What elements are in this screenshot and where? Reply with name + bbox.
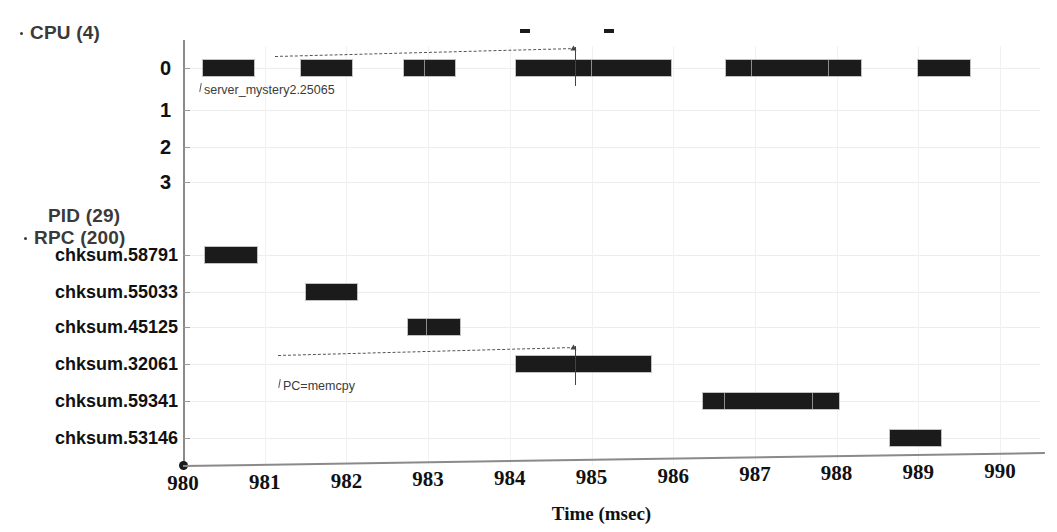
- y-axis-tick: [183, 110, 190, 111]
- y-axis-tick: [183, 292, 190, 293]
- y-axis-tick: [183, 255, 190, 256]
- x-axis-title: Time (msec): [552, 503, 651, 525]
- vertical-gridline: [428, 46, 429, 465]
- y-axis-tick: [183, 364, 190, 365]
- y-axis-tick: [183, 68, 190, 69]
- cpu-bar-segment-divider: [424, 60, 425, 76]
- cpu-header-bullet: [20, 32, 23, 35]
- cpu-bar-segment-divider: [591, 60, 592, 76]
- cpu-row-label: 0: [160, 57, 171, 80]
- cpu-bar-segment-divider: [751, 60, 752, 76]
- x-axis-tick-label: 987: [739, 462, 771, 487]
- row-gridline: [183, 147, 1040, 148]
- server-mystery-annotation-label: server_mystery2.25065: [204, 83, 335, 97]
- vertical-gridline: [918, 46, 919, 465]
- rpc-bar[interactable]: [890, 430, 941, 446]
- x-axis-tick-label: 983: [412, 467, 444, 492]
- pc-memcpy-annotation-label: PC=memcpy: [283, 379, 355, 393]
- rpc-bar[interactable]: [205, 247, 256, 263]
- row-gridline: [183, 110, 1040, 111]
- rpc-row-label: chksum.45125: [55, 317, 178, 338]
- cpu-bar[interactable]: [516, 60, 671, 76]
- x-axis-tick-label: 985: [576, 465, 608, 490]
- cpu-row-label: 3: [160, 171, 171, 194]
- pc-memcpy-annotation-arrow-stem: [575, 346, 576, 385]
- row-gridline: [183, 255, 1040, 256]
- row-gridline: [183, 182, 1040, 183]
- x-axis-tick-label: 980: [167, 471, 199, 496]
- vertical-gridline: [510, 46, 511, 465]
- cpu-bar[interactable]: [726, 60, 861, 76]
- pc-memcpy-annotation-text-hook: [278, 379, 281, 388]
- x-axis-tick-label: 989: [903, 460, 935, 485]
- y-axis-tick: [183, 401, 190, 402]
- cpu-bar[interactable]: [918, 60, 969, 76]
- row-gridline: [183, 401, 1040, 402]
- cpu-event-mark: [520, 29, 530, 33]
- rpc-row-label: chksum.59341: [55, 391, 178, 412]
- rpc-bar[interactable]: [703, 393, 839, 409]
- y-axis-tick: [183, 327, 190, 328]
- rpc-bar-segment-divider: [812, 393, 813, 409]
- rpc-header-bullet: [24, 237, 27, 240]
- rpc-row-label: chksum.55033: [55, 282, 178, 303]
- vertical-gridline: [592, 46, 593, 465]
- rpc-row-label: chksum.32061: [55, 354, 178, 375]
- x-axis-tick-label: 986: [657, 464, 689, 489]
- x-axis-tick-label: 981: [249, 470, 281, 495]
- x-axis-tick-label: 988: [821, 461, 853, 486]
- y-axis-tick: [183, 182, 190, 183]
- cpu-group-header: CPU (4): [30, 22, 100, 44]
- pid-group-header: PID (29): [48, 205, 120, 227]
- cpu-bar-segment-divider: [828, 60, 829, 76]
- cpu-row-label: 1: [160, 99, 171, 122]
- vertical-gridline: [673, 46, 674, 465]
- pc-memcpy-annotation-leader-line: [278, 347, 575, 356]
- rpc-bar-segment-divider: [724, 393, 725, 409]
- server-mystery-annotation-text-hook: [199, 83, 202, 92]
- cpu-bar[interactable]: [301, 60, 352, 76]
- cpu-bar[interactable]: [203, 60, 254, 76]
- server-mystery-annotation-arrow-stem: [575, 47, 576, 86]
- vertical-gridline: [265, 46, 266, 465]
- row-gridline: [183, 327, 1040, 328]
- rpc-bar[interactable]: [408, 319, 460, 335]
- vertical-gridline: [346, 46, 347, 465]
- rpc-bar-segment-divider: [426, 319, 427, 335]
- server-mystery-annotation-leader-line: [274, 48, 575, 57]
- y-axis-tick: [183, 438, 190, 439]
- y-axis-tick: [183, 147, 190, 148]
- x-axis-tick-label: 990: [984, 459, 1016, 484]
- rpc-bar[interactable]: [516, 356, 651, 372]
- cpu-event-mark: [604, 29, 614, 33]
- cpu-row-label: 2: [160, 136, 171, 159]
- timeline-chart: CPU (4) PID (29) RPC (200) 0123chksum.58…: [0, 0, 1057, 532]
- rpc-bar[interactable]: [306, 284, 357, 300]
- rpc-row-label: chksum.58791: [55, 245, 178, 266]
- x-axis-tick-label: 982: [331, 469, 363, 494]
- x-axis-tick-label: 984: [494, 466, 526, 491]
- rpc-row-label: chksum.53146: [55, 428, 178, 449]
- cpu-bar[interactable]: [404, 60, 455, 76]
- vertical-gridline: [1000, 46, 1001, 465]
